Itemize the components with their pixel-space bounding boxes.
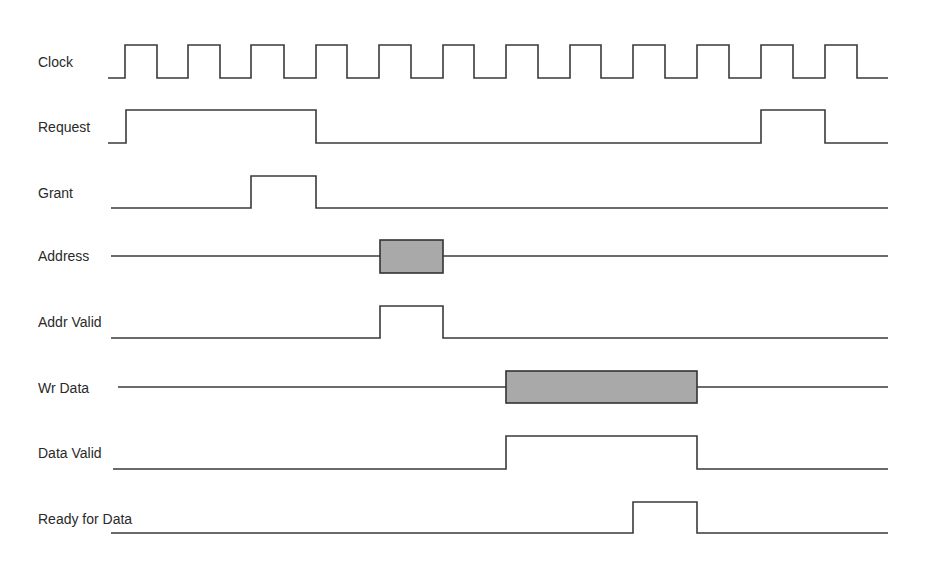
timing-diagram: Clock Request Grant Address Addr Valid W…	[0, 0, 931, 575]
waveform-addr-valid	[111, 306, 888, 338]
waveform-wr-data	[118, 371, 888, 403]
waveform-address	[111, 240, 888, 273]
bus-value-box	[380, 240, 443, 273]
waveform-ready-for-data	[111, 502, 888, 533]
waveform-clock	[108, 45, 888, 78]
waveform-data-valid	[113, 436, 888, 469]
waveform-grant	[111, 176, 888, 208]
bus-value-box	[506, 371, 697, 403]
waveform-request	[108, 110, 888, 143]
waveforms	[0, 0, 931, 575]
